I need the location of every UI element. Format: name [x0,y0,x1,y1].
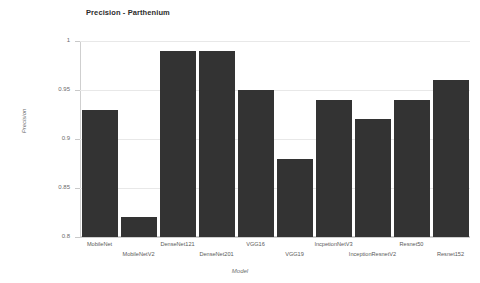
x-tick-label: DenseNet121 [160,241,194,247]
x-tick-label: MobileNet [87,241,112,247]
bar[interactable] [238,90,274,237]
x-tick-label: Resnet152 [437,251,464,257]
y-tick-label: 0.9 [44,135,70,141]
bar[interactable] [160,51,196,237]
x-tick-label: VGG16 [246,241,265,247]
bar[interactable] [394,100,430,237]
y-axis-label: Precision [21,91,27,151]
bar[interactable] [199,51,235,237]
x-axis-label: Model [0,268,480,274]
bar[interactable] [355,119,391,237]
y-tick-label: 0.8 [44,233,70,239]
y-tick-label: 0.85 [44,184,70,190]
bar[interactable] [433,80,469,237]
bar[interactable] [277,159,313,237]
x-tick-label: VGG19 [285,251,304,257]
x-tick-label: IncpetionNetV3 [314,241,352,247]
bar[interactable] [121,217,157,237]
chart-title: Precision - Parthenium [86,8,170,17]
x-tick-label: InceptionResnetV2 [349,251,396,257]
y-tick-mark [75,237,80,238]
x-tick-label: MobileNetV2 [122,251,154,257]
bars-container [80,41,470,237]
bar[interactable] [82,110,118,237]
gridline [80,237,470,238]
x-tick-label: Resnet50 [400,241,424,247]
y-tick-label: 1 [44,37,70,43]
y-tick-label: 0.95 [44,86,70,92]
bar[interactable] [316,100,352,237]
precision-bar-chart: Precision - Parthenium Precision 0.80.85… [0,0,480,283]
x-tick-label: DenseNet201 [199,251,233,257]
